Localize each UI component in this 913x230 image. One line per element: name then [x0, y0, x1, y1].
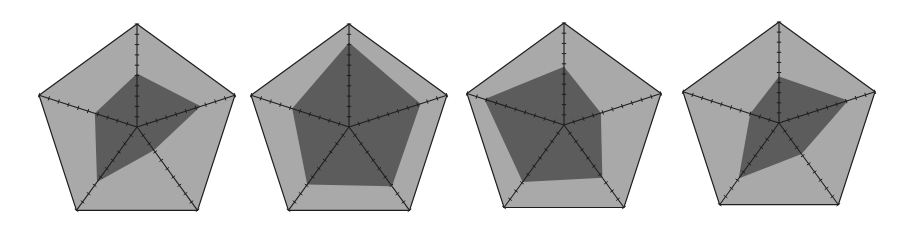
- radar-chart-4: [682, 22, 875, 206]
- radar-chart-1: [38, 24, 235, 212]
- radar-chart-2: [250, 24, 447, 212]
- radar-charts-canvas: [0, 0, 913, 230]
- radar-chart-3: [466, 23, 661, 209]
